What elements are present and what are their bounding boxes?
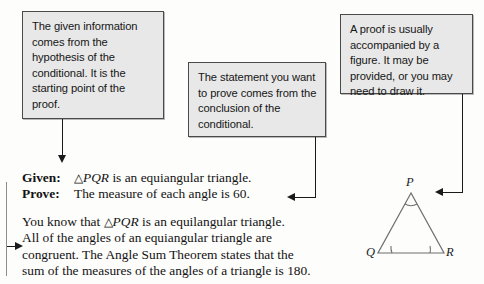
vertex-label-p: P [406, 175, 414, 190]
prove-text: The measure of each angle is 60. [74, 186, 250, 202]
triangle-symbol-paragraph: △ [104, 215, 113, 229]
triangle-figure: P Q R [355, 175, 465, 270]
paragraph-line-1: You know that △PQR is an equilangular tr… [22, 214, 342, 230]
given-label: Given: [22, 170, 74, 186]
paragraph-bracket-rail [6, 182, 7, 276]
given-text: △PQR is an equiangular triangle. [74, 170, 251, 186]
angle-arc-p [405, 204, 417, 206]
annotated-proof-diagram: The given information comes from the hyp… [0, 0, 484, 284]
triangle-symbol-given: △ [74, 171, 83, 185]
paragraph-line-4: sum of the measures of the angles of a t… [22, 263, 342, 279]
triangle-outline [378, 193, 444, 253]
connector-line-given [62, 119, 63, 157]
callout-prove-statement: The statement you want to prove comes fr… [188, 62, 326, 137]
prove-row: Prove: The measure of each angle is 60. [22, 186, 322, 202]
callout-given-information: The given information comes from the hyp… [22, 11, 164, 119]
callout-figure-note: A proof is usually accompanied by a figu… [340, 14, 473, 94]
given-triangle-vertices: PQR [83, 170, 109, 185]
paragraph-line-3: congruent. The Angle Sum Theorem states … [22, 247, 342, 263]
given-text-tail: is an equiangular triangle. [109, 170, 251, 185]
proof-paragraph: You know that △PQR is an equilangular tr… [22, 214, 342, 280]
paragraph-line-1-post: is an equilangular triangle. [139, 214, 285, 229]
given-row: Given: △PQR is an equiangular triangle. [22, 170, 322, 186]
angle-arc-q [391, 246, 392, 253]
vertex-label-q: Q [366, 245, 375, 260]
prove-label: Prove: [22, 186, 74, 202]
proof-statement-block: Given: △PQR is an equiangular triangle. … [22, 170, 322, 202]
connector-arrow-given [58, 155, 66, 163]
paragraph-line-2: All of the angles of an equiangular tria… [22, 230, 342, 246]
vertex-label-r: R [446, 245, 454, 260]
paragraph-triangle-vertices: PQR [113, 214, 139, 229]
paragraph-line-1-pre: You know that [22, 214, 104, 229]
